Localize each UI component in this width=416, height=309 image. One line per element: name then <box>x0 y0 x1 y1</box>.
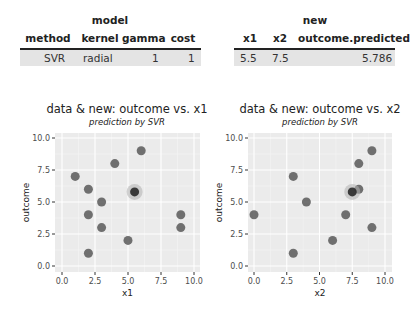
y-axis-label: outcome <box>214 182 224 222</box>
x-tick-label: 2.5 <box>280 277 293 286</box>
data-point <box>71 172 80 181</box>
data-point <box>302 198 311 207</box>
y-tick-label: 0.0 <box>37 262 50 271</box>
cell-method: SVR <box>44 52 65 64</box>
y-tick-label: 10.0 <box>225 134 243 143</box>
data-point <box>367 223 376 232</box>
col-gamma: gamma <box>122 32 162 44</box>
x-tick-label: 7.5 <box>346 277 359 286</box>
data-point <box>250 210 259 219</box>
data-point <box>176 210 185 219</box>
y-axis-label: outcome <box>21 182 31 222</box>
data-point <box>354 159 363 168</box>
y-tick-label: 7.5 <box>37 166 50 175</box>
data-point <box>341 210 350 219</box>
y-tick-label: 0.0 <box>230 262 243 271</box>
col-outcome-predicted: outcome.predicted <box>298 32 398 44</box>
prediction-halo <box>127 184 143 200</box>
cell-outcome-predicted: 5.786 <box>362 52 392 64</box>
data-point <box>367 146 376 155</box>
new-group-header: new <box>285 14 345 26</box>
data-point <box>84 210 93 219</box>
x-tick-label: 0.0 <box>56 277 69 286</box>
cell-gamma: 1 <box>152 52 159 64</box>
y-tick-label: 7.5 <box>230 166 243 175</box>
x-tick-label: 10.0 <box>185 277 203 286</box>
data-point <box>84 249 93 258</box>
data-point <box>328 236 337 245</box>
data-point <box>97 223 106 232</box>
x-tick-label: 7.5 <box>155 277 168 286</box>
col-x1: x1 <box>238 32 262 44</box>
chart-subtitle: prediction by SVR <box>281 117 358 127</box>
data-point <box>289 249 298 258</box>
x-tick-label: 10.0 <box>376 277 394 286</box>
col-x2: x2 <box>268 32 292 44</box>
model-group-header: model <box>70 14 150 26</box>
data-point <box>137 146 146 155</box>
y-tick-label: 10.0 <box>32 134 50 143</box>
y-tick-label: 2.5 <box>37 230 50 239</box>
col-method: method <box>22 32 74 44</box>
y-tick-label: 5.0 <box>230 198 243 207</box>
data-point <box>289 172 298 181</box>
y-tick-label: 5.0 <box>37 198 50 207</box>
data-point <box>97 198 106 207</box>
x-tick-label: 5.0 <box>313 277 326 286</box>
cell-x1: 5.5 <box>240 52 257 64</box>
x-tick-label: 5.0 <box>122 277 135 286</box>
prediction-point <box>348 187 357 196</box>
data-point <box>124 236 133 245</box>
plot-panel <box>248 133 392 272</box>
chart-title: data & new: outcome vs. x2 <box>239 102 400 116</box>
col-kernel: kernel <box>78 32 122 44</box>
data-point <box>354 185 363 194</box>
x-axis-label: x1 <box>122 288 133 298</box>
cell-x2: 7.5 <box>272 52 289 64</box>
x-axis-label: x2 <box>314 288 325 298</box>
plot-panel <box>55 133 200 272</box>
data-point <box>84 185 93 194</box>
prediction-point <box>130 187 139 196</box>
model-table: model method kernel gamma cost SVR radia… <box>0 0 210 75</box>
x-tick-label: 2.5 <box>89 277 102 286</box>
prediction-halo <box>344 184 360 200</box>
x-tick-label: 0.0 <box>248 277 261 286</box>
chart-title: data & new: outcome vs. x1 <box>46 102 207 116</box>
cell-cost: 1 <box>188 52 195 64</box>
data-point <box>176 223 185 232</box>
y-tick-label: 2.5 <box>230 230 243 239</box>
col-cost: cost <box>168 32 198 44</box>
data-point <box>110 159 119 168</box>
new-table: new x1 x2 outcome.predicted 5.5 7.5 5.78… <box>210 0 416 75</box>
chart-subtitle: prediction by SVR <box>88 117 165 127</box>
cell-kernel: radial <box>83 52 113 64</box>
